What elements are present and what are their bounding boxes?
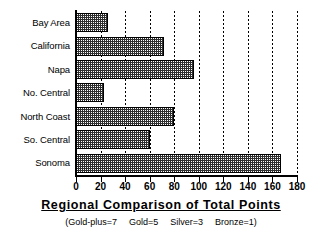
category-label-north-coast: North Coast: [0, 105, 74, 128]
subtitle-part-2: Silver=3: [170, 217, 203, 227]
x-axis-tick-labels: 020406080100120140160180: [0, 182, 322, 195]
bar-chart: Bay Area California Napa No. Central Nor…: [0, 0, 322, 235]
tick-label-60: 60: [144, 182, 155, 192]
category-label-sonoma: Sonoma: [0, 152, 74, 175]
tick-label-100: 100: [190, 182, 207, 192]
bar-row: [76, 34, 297, 57]
bar-row: [76, 11, 297, 34]
tick-label-120: 120: [215, 182, 232, 192]
chart-title: Regional Comparison of Total Points: [0, 199, 322, 212]
tick-180: [297, 177, 298, 182]
tick-160: [272, 177, 273, 182]
tick-0: [76, 177, 77, 182]
subtitle-part-0: (Gold-plus=7: [65, 217, 117, 227]
chart-title-text: Regional Comparison of Total Points: [41, 198, 281, 212]
bar-no-central: [76, 83, 104, 102]
bar-row: [76, 128, 297, 151]
bar-california: [76, 37, 164, 56]
tick-label-0: 0: [73, 182, 79, 192]
plot-area: [76, 11, 297, 175]
chart-subtitle: (Gold-plus=7Gold=5Silver=3Bronze=1): [0, 218, 322, 227]
bar-row: [76, 105, 297, 128]
gridline-180: [297, 11, 298, 175]
bar-row: [76, 58, 297, 81]
tick-100: [199, 177, 200, 182]
bar-series: [76, 11, 297, 175]
tick-label-40: 40: [120, 182, 131, 192]
category-label-so-central: So. Central: [0, 128, 74, 151]
tick-label-160: 160: [264, 182, 281, 192]
bar-north-coast: [76, 107, 174, 126]
category-label-bay-area: Bay Area: [0, 11, 74, 34]
category-label-california: California: [0, 34, 74, 57]
tick-label-140: 140: [240, 182, 257, 192]
tick-60: [150, 177, 151, 182]
tick-label-180: 180: [289, 182, 306, 192]
tick-20: [101, 177, 102, 182]
bar-bay-area: [76, 13, 108, 32]
tick-label-80: 80: [169, 182, 180, 192]
bar-napa: [76, 60, 194, 79]
tick-140: [248, 177, 249, 182]
tick-40: [125, 177, 126, 182]
bar-row: [76, 152, 297, 175]
bar-so-central: [76, 130, 150, 149]
x-axis-ticks: [76, 177, 297, 182]
tick-120: [223, 177, 224, 182]
subtitle-part-1: Gold=5: [129, 217, 158, 227]
bar-sonoma: [76, 154, 281, 173]
category-label-napa: Napa: [0, 58, 74, 81]
tick-80: [174, 177, 175, 182]
category-axis: Bay Area California Napa No. Central Nor…: [0, 11, 74, 175]
bar-row: [76, 81, 297, 104]
subtitle-part-3: Bronze=1): [215, 217, 257, 227]
y-axis-line: [75, 10, 77, 176]
tick-label-20: 20: [95, 182, 106, 192]
category-label-no-central: No. Central: [0, 81, 74, 104]
